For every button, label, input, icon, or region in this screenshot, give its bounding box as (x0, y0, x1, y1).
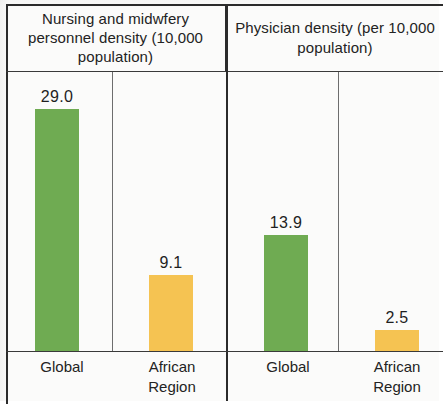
chart-plot-area: 29.0 9.1 13.9 2.5 (6, 72, 443, 352)
bar-column-nursing-global: 29.0 (35, 71, 79, 351)
bar-value-nursing-global: 29.0 (41, 88, 73, 106)
header-physician-density: Physician density (per 10,000 population… (227, 4, 443, 71)
bar-rect-nursing-african (149, 275, 193, 351)
category-label-physician-african: African Region (350, 357, 444, 396)
category-label-nursing-african: African Region (124, 357, 220, 396)
bar-column-nursing-african: 9.1 (149, 71, 193, 351)
category-label-row: Global African Region Global African Reg… (6, 352, 443, 401)
bar-rect-physician-african (375, 330, 419, 351)
bar-rect-nursing-global (35, 109, 79, 351)
divider-nursing-columns (112, 72, 113, 351)
header-nursing-density: Nursing and midwfery personnel density (… (6, 4, 227, 71)
bar-column-physician-global: 13.9 (264, 71, 308, 351)
category-label-nursing-global: Global (12, 357, 112, 377)
category-label-physician-global: Global (238, 357, 338, 377)
bar-value-physician-african: 2.5 (385, 309, 408, 327)
divider-physician-columns (338, 72, 339, 351)
divider-panels (226, 4, 228, 351)
bar-rect-physician-global (264, 235, 308, 351)
bar-value-physician-global: 13.9 (270, 214, 302, 232)
divider-labels-panels (226, 352, 228, 401)
bar-column-physician-african: 2.5 (375, 71, 419, 351)
table-header-row: Nursing and midwfery personnel density (… (6, 4, 443, 72)
bar-value-nursing-african: 9.1 (159, 254, 182, 272)
